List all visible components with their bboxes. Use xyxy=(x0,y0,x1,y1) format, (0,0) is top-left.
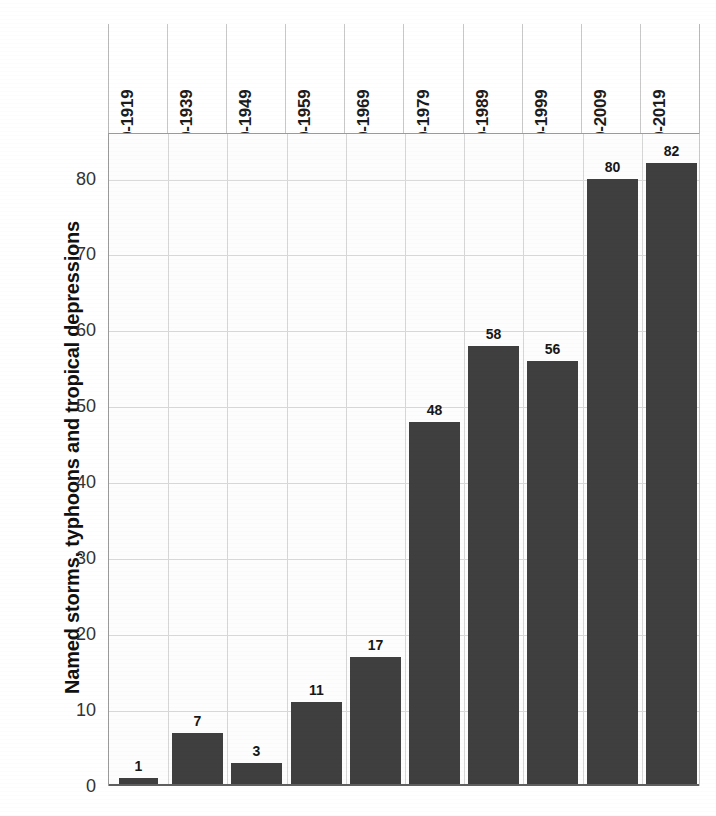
bar[interactable] xyxy=(172,733,223,786)
x-axis-category-cell: 1910-1919 xyxy=(109,24,168,133)
bar[interactable] xyxy=(646,163,697,786)
bar[interactable] xyxy=(587,179,638,786)
x-axis-category-cell: 1930-1939 xyxy=(168,24,227,133)
bar-slot: 17 xyxy=(350,134,401,786)
y-tick-label-30: 30 xyxy=(76,548,96,569)
bar-value-label: 82 xyxy=(646,143,697,159)
x-axis-category-cell: 2000-2009 xyxy=(582,24,641,133)
bar-value-label: 11 xyxy=(291,682,342,698)
x-axis-category-cell: 2010-2019 xyxy=(641,24,699,133)
bar-slot: 11 xyxy=(291,134,342,786)
bar-chart: Named storms, typhoons and tropical depr… xyxy=(0,0,716,816)
x-axis-category-cell: 1980-1989 xyxy=(464,24,523,133)
bar-value-label: 48 xyxy=(409,402,460,418)
y-tick-label-70: 70 xyxy=(76,244,96,265)
bar-value-label: 17 xyxy=(350,637,401,653)
plot-area: 17311174858568082 xyxy=(108,133,700,786)
bar-value-label: 7 xyxy=(172,713,223,729)
y-tick-label-20: 20 xyxy=(76,624,96,645)
bar[interactable] xyxy=(231,763,282,786)
bar-slot: 82 xyxy=(646,134,697,786)
x-axis-category-cell: 1940-1949 xyxy=(227,24,286,133)
y-tick-label-0: 0 xyxy=(86,776,96,797)
x-axis-category-cell: 1970-1979 xyxy=(404,24,463,133)
bar[interactable] xyxy=(350,657,401,786)
bar-slot: 56 xyxy=(527,134,578,786)
bar-slot: 58 xyxy=(468,134,519,786)
bar[interactable] xyxy=(527,361,578,786)
bar-slot: 7 xyxy=(172,134,223,786)
x-axis-category-cell: 1960-1969 xyxy=(345,24,404,133)
bar-slot: 3 xyxy=(231,134,282,786)
bar[interactable] xyxy=(468,346,519,786)
bar-slot: 48 xyxy=(409,134,460,786)
y-tick-label-60: 60 xyxy=(76,320,96,341)
x-axis-baseline xyxy=(109,784,699,786)
bar-value-label: 1 xyxy=(113,758,164,774)
bar-value-label: 56 xyxy=(527,341,578,357)
bar[interactable] xyxy=(291,702,342,786)
bar-value-label: 58 xyxy=(468,326,519,342)
x-axis-category-cell: 1950-1959 xyxy=(286,24,345,133)
bar[interactable] xyxy=(409,422,460,786)
y-axis-tick-labels: 80706050403020100 xyxy=(46,133,102,786)
x-axis-category-header: 1910-19191930-19391940-19491950-19591960… xyxy=(108,24,700,133)
y-tick-label-40: 40 xyxy=(76,472,96,493)
bar-value-label: 80 xyxy=(587,159,638,175)
y-tick-label-50: 50 xyxy=(76,396,96,417)
y-tick-label-80: 80 xyxy=(76,168,96,189)
x-axis-category-cell: 1990-1999 xyxy=(523,24,582,133)
bar-slot: 1 xyxy=(113,134,164,786)
bars-layer: 17311174858568082 xyxy=(109,134,699,786)
bar-value-label: 3 xyxy=(231,743,282,759)
y-tick-label-10: 10 xyxy=(76,700,96,721)
bar-slot: 80 xyxy=(587,134,638,786)
